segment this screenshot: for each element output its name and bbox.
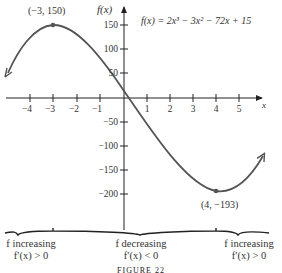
y-tick-label: −100 [98, 141, 118, 151]
x-tick-label: −3 [45, 104, 55, 114]
equation-label: f(x) = 2x³ − 3x² − 72x + 15 [141, 15, 251, 27]
x-tick-label: 5 [237, 104, 242, 114]
x-tick-label: −4 [22, 104, 32, 114]
interval-mid-line1: f decreasing [108, 238, 174, 250]
x-tick-label: 4 [214, 104, 219, 114]
interval-right-note: f increasing f′(x) > 0 [217, 238, 281, 262]
interval-mid-note: f decreasing f′(x) < 0 [108, 238, 174, 262]
interval-mid-line2: f′(x) < 0 [108, 250, 174, 262]
local-min-label: (4, −193) [201, 199, 238, 211]
x-axis [6, 94, 262, 102]
x-tick-label: 1 [145, 104, 150, 114]
interval-left-line1: f increasing [2, 238, 60, 250]
chart-canvas: f(x) x −4 −3 −2 −1 1 2 3 4 5 150 100 50 … [0, 0, 282, 273]
y-axis [120, 7, 128, 230]
y-tick-label: −150 [98, 165, 118, 175]
y-tick-label: 100 [104, 44, 119, 54]
figure-caption: FIGURE 22 [0, 266, 282, 273]
y-tick-label: −200 [98, 189, 118, 199]
x-tick-labels: −4 −3 −2 −1 1 2 3 4 5 [22, 104, 242, 114]
interval-brace [5, 228, 269, 235]
interval-left-line2: f′(x) > 0 [2, 250, 60, 262]
x-tick-label: 2 [168, 104, 173, 114]
local-max-label: (−3, 150) [28, 5, 65, 17]
local-min-point [214, 189, 219, 194]
y-axis-label: f(x) [97, 3, 113, 16]
interval-right-line2: f′(x) > 0 [217, 250, 281, 262]
interval-right-line1: f increasing [217, 238, 281, 250]
x-tick-label: −1 [92, 104, 102, 114]
y-tick-label: −50 [103, 117, 118, 127]
y-tick-label: 50 [109, 68, 119, 78]
x-tick-label: −2 [69, 104, 79, 114]
interval-left-note: f increasing f′(x) > 0 [2, 238, 60, 262]
y-tick-label: 150 [104, 20, 119, 30]
x-tick-label: 3 [191, 104, 196, 114]
local-max-point [51, 23, 56, 28]
x-axis-label: x [261, 100, 266, 110]
